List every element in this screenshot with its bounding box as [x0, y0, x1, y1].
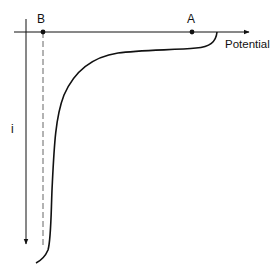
point-b-label: B	[37, 12, 45, 26]
current-potential-curve	[36, 32, 217, 263]
x-axis-label: Potential	[225, 38, 270, 50]
point-b-marker	[41, 30, 46, 35]
point-a-marker	[190, 30, 195, 35]
point-a-label: A	[187, 12, 195, 26]
y-axis-label: i	[11, 122, 14, 136]
diagram-canvas: B A Potential i	[0, 0, 276, 265]
